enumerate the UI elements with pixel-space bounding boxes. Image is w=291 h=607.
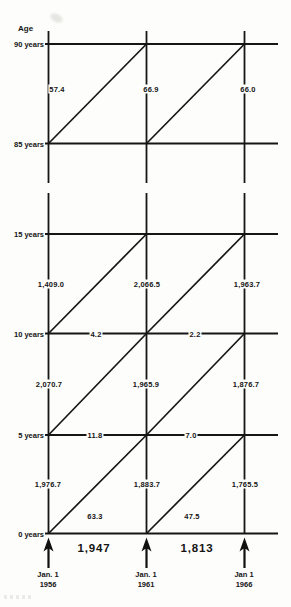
age-label-15: 15 years [0, 230, 45, 239]
date-year: 1961 [135, 580, 156, 590]
age-label-10: 10 years [0, 329, 45, 338]
value-age5-1956-61: 11.8 [87, 430, 104, 439]
age-label-0: 0 years [0, 529, 45, 538]
date-label-1961: Jan. 1 1961 [135, 570, 156, 589]
cohort-diagonal-85-90-a [49, 44, 147, 144]
timeline-arrow-1956 [44, 538, 54, 569]
value-age10-1956-61: 4.2 [89, 329, 102, 338]
date-label-1956: Jan. 1 1956 [37, 570, 58, 589]
pop-5-10-1966: 1,876.7 [232, 380, 260, 389]
date-label-1966: Jan 1 1966 [234, 570, 253, 589]
pop-10-15-1956: 1,409.0 [37, 280, 65, 289]
births-1956-61: 1,947 [76, 543, 113, 552]
births-1961-66: 1,813 [179, 543, 216, 552]
age-label-85: 85 years [0, 139, 45, 148]
date-day: Jan. 1 [135, 570, 156, 580]
pop-5-10-1956: 2,070.7 [35, 380, 63, 389]
triangle-value-1961-66: 47.5 [183, 512, 200, 521]
pop-0-5-1961: 1,883.7 [133, 480, 161, 489]
cohort-diagonal-5-10-b [147, 334, 245, 436]
age-label-90: 90 years [0, 40, 45, 49]
date-year: 1956 [37, 580, 58, 590]
date-year: 1966 [234, 580, 253, 590]
pop-5-10-1961: 1,965.9 [132, 380, 160, 389]
date-day: Jan 1 [234, 570, 253, 580]
pop-0-5-1956: 1,976.7 [34, 480, 62, 489]
date-day: Jan. 1 [37, 570, 58, 580]
pop-85-90-1956: 57.4 [48, 84, 65, 93]
pop-85-90-1961: 66.9 [142, 84, 159, 93]
timeline-arrow-1961 [142, 538, 152, 569]
pop-0-5-1966: 1,765.5 [231, 480, 259, 489]
value-age10-1961-66: 2.2 [188, 329, 201, 338]
lexis-diagram-page: Age 90 years 85 years 15 years 10 years … [0, 0, 291, 607]
cohort-diagonal-85-90-b [147, 44, 245, 144]
age-axis-title: Age [18, 24, 33, 33]
age-label-5: 5 years [0, 431, 45, 440]
scan-smudge-bottom [4, 595, 31, 599]
triangle-value-1956-61: 63.3 [86, 512, 103, 521]
pop-10-15-1961: 2,066.5 [133, 280, 161, 289]
value-age5-1961-66: 7.0 [184, 430, 197, 439]
timeline-arrow-1966 [240, 538, 250, 569]
pop-85-90-1966: 66.0 [239, 84, 256, 93]
pop-10-15-1966: 1,963.7 [233, 280, 261, 289]
